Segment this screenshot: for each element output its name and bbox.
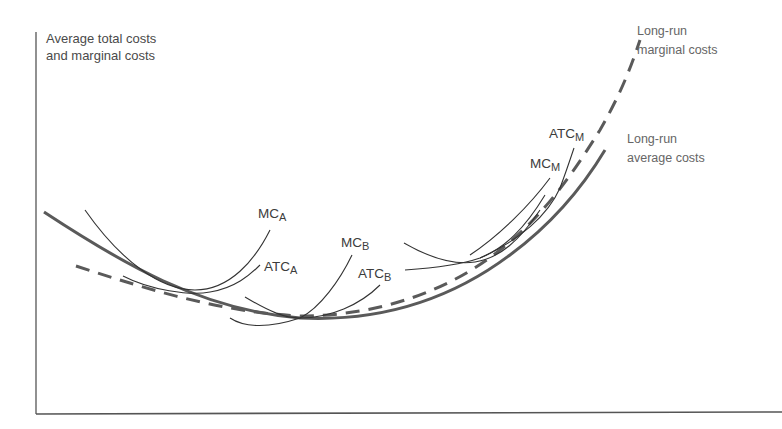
lrac-label-line1: Long-run	[627, 130, 705, 149]
atc-a-curve	[123, 265, 260, 293]
lrac-label-line2: average costs	[627, 149, 705, 168]
y-axis-label-line2: and marginal costs	[46, 47, 156, 64]
long-run-marginal-cost-label: Long-run marginal costs	[637, 22, 718, 60]
long-run-average-cost-label: Long-run average costs	[627, 130, 705, 168]
lrmc-label-line2: marginal costs	[637, 41, 718, 60]
mc-a-label: MCA	[258, 205, 286, 226]
mc-mid-curve	[405, 195, 545, 270]
mc-a-curve	[85, 210, 270, 290]
cost-curves-diagram	[0, 0, 782, 429]
atc-b-label: ATCB	[358, 265, 391, 286]
mc-m-label: MCM	[530, 155, 560, 176]
y-axis-label: Average total costs and marginal costs	[46, 30, 156, 64]
lrmc-label-line1: Long-run	[637, 22, 718, 41]
mc-b-label: MCB	[341, 234, 369, 255]
y-axis-label-line1: Average total costs	[46, 30, 156, 47]
atc-mid-curve	[404, 210, 540, 263]
x-axis	[36, 412, 782, 414]
atc-a-label: ATCA	[264, 258, 297, 279]
atc-m-label: ATCM	[549, 125, 584, 146]
